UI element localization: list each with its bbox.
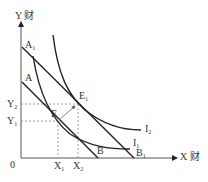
y2-label: Y2 — [7, 99, 17, 112]
curve-I1-label: I1 — [133, 138, 139, 151]
x2-label: X2 — [73, 161, 83, 174]
indifference-diagram: Y 财 X 财 0 A1 A Y2 Y1 E E1 X1 X2 B B1 I2 … — [0, 0, 208, 182]
x1-label: X1 — [54, 161, 64, 174]
x-axis-label: X 财 — [180, 152, 200, 162]
y1-label: Y1 — [7, 116, 17, 129]
guide-lines — [21, 104, 78, 158]
point-B-label: B — [97, 146, 104, 156]
point-A1-label: A1 — [25, 40, 35, 53]
y-axis-label: Y 财 — [15, 11, 34, 21]
indifference-curve-I2 — [53, 35, 141, 130]
curve-I2-label: I2 — [145, 124, 151, 137]
shift-arrow — [59, 106, 75, 120]
point-E-label: E — [51, 109, 57, 119]
origin-label: 0 — [10, 160, 15, 170]
point-A-label: A — [25, 73, 32, 83]
diagram-graphics — [0, 0, 208, 182]
point-E1-label: E1 — [79, 91, 88, 104]
